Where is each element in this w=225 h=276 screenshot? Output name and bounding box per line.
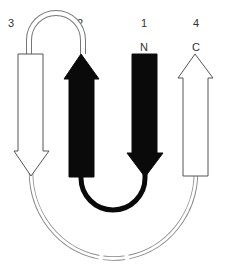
strand-2-arrow	[64, 54, 99, 177]
loop-3-to-4	[31, 172, 196, 258]
strand-1-arrow	[127, 54, 163, 177]
strand-4-arrow	[178, 54, 213, 176]
loop-2-to-3	[29, 13, 83, 54]
loop-1-to-2	[81, 172, 145, 210]
strand-3-arrow	[14, 54, 49, 176]
